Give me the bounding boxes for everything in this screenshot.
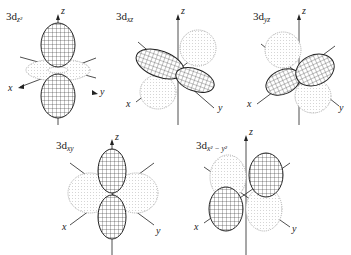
x-axis-label: x (8, 82, 12, 93)
orbital-dxy: 3dxy z x y (50, 125, 180, 255)
x-axis-label: x (126, 98, 130, 109)
x-axis-label: x (247, 98, 251, 109)
orbital-dx2-y2: 3dx² − y² z x y (190, 125, 330, 255)
y-axis-label: y (339, 102, 343, 113)
z-axis-label: z (61, 5, 65, 16)
dx2y2-label: 3dx² − y² (196, 139, 227, 153)
orbital-dyz: 3dyz z x y (231, 0, 351, 125)
dxy-label: 3dxy (56, 139, 74, 153)
x-axis-label: x (62, 221, 66, 232)
dz2-label: 3dz² (6, 10, 22, 24)
z-axis-label: z (115, 131, 119, 142)
y-axis-label: y (100, 86, 104, 97)
z-axis-label: z (302, 5, 306, 16)
orbital-dz2: 3dz² z x y (0, 0, 120, 125)
y-axis-label: y (156, 225, 160, 236)
x-axis-label: x (194, 221, 198, 232)
orbital-dxz: 3dxz z x y (110, 0, 230, 125)
dxz-label: 3dxz (116, 10, 133, 24)
y-axis-label: y (292, 223, 296, 234)
y-axis-label: y (218, 102, 222, 113)
dyz-label: 3dyz (253, 10, 270, 24)
z-axis-label: z (181, 5, 185, 16)
z-axis-label: z (249, 126, 253, 137)
